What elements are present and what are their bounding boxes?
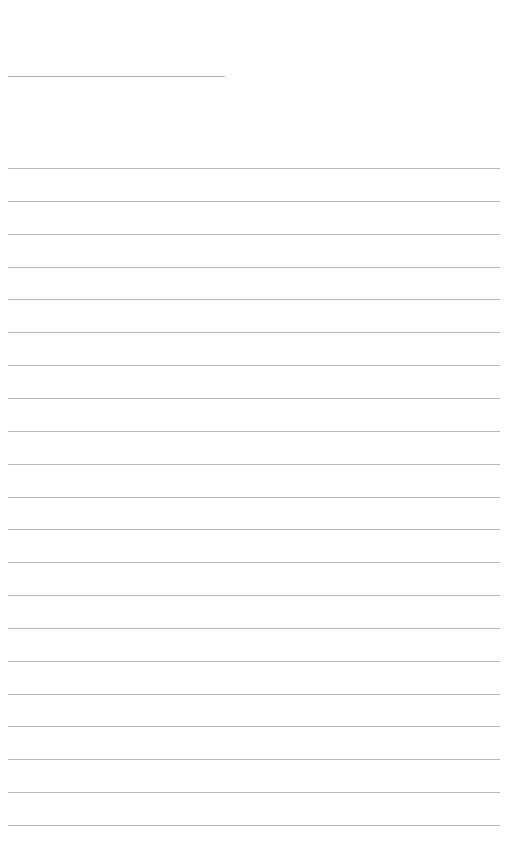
ruled-line [8,398,500,399]
header-underline [8,76,225,77]
ruled-line [8,628,500,629]
ruled-line [8,365,500,366]
ruled-line [8,661,500,662]
ruled-line [8,562,500,563]
ruled-line [8,694,500,695]
ruled-line [8,431,500,432]
ruled-line [8,792,500,793]
ruled-line [8,726,500,727]
ruled-line [8,267,500,268]
ruled-page [0,0,532,859]
ruled-line [8,825,500,826]
ruled-line [8,299,500,300]
ruled-line [8,759,500,760]
ruled-line [8,595,500,596]
ruled-line [8,234,500,235]
ruled-line [8,332,500,333]
ruled-line [8,464,500,465]
ruled-line [8,529,500,530]
ruled-line [8,201,500,202]
ruled-line [8,497,500,498]
ruled-line [8,168,500,169]
